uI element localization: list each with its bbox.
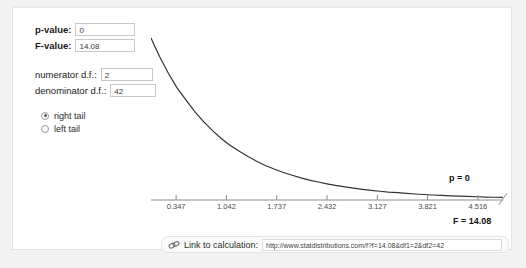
f-value-row: F-value: 14.08 [35, 38, 165, 53]
x-tick-label: 3.127 [368, 202, 387, 211]
x-tick-label: 2.432 [318, 202, 337, 211]
tail-radio-group: right tail left tail [41, 109, 86, 135]
f-value-output[interactable]: 14.08 [75, 39, 135, 52]
radio-left-tail-icon[interactable] [41, 125, 49, 133]
radio-left-tail-label: left tail [54, 124, 80, 134]
distribution-plot: 0.3471.0421.7372.4323.1273.8214.516 p = … [151, 20, 519, 205]
x-tick-label: 0.347 [167, 202, 186, 211]
denominator-df-label: denominator d.f.: [35, 85, 106, 96]
p-value-row: p-value: 0 [35, 22, 165, 37]
f-marker-slash [496, 193, 507, 205]
link-to-calculation-label: Link to calculation: [184, 240, 258, 250]
input-form: p-value: 0 F-value: 14.08 numerator d.f.… [35, 22, 165, 99]
radio-option-right-tail[interactable]: right tail [41, 109, 86, 122]
x-tick-label: 1.737 [267, 202, 286, 211]
chain-link-icon [168, 240, 180, 250]
f-value-annotation: F = 14.08 [453, 216, 491, 226]
x-tick-label: 3.821 [418, 202, 437, 211]
p-value-label: p-value: [35, 24, 71, 35]
f-value-label: F-value: [35, 40, 71, 51]
x-axis-ticks [176, 195, 478, 200]
radio-right-tail-label: right tail [54, 111, 86, 121]
p-value-annotation: p = 0 [449, 173, 470, 183]
form-spacer [35, 54, 165, 67]
numerator-df-row: numerator d.f.: 2 [35, 67, 165, 82]
x-tick-label: 4.516 [468, 202, 487, 211]
x-tick-label: 1.042 [217, 202, 236, 211]
radio-right-tail-icon[interactable] [41, 112, 49, 120]
denominator-df-row: denominator d.f.: 42 [35, 83, 165, 98]
numerator-df-label: numerator d.f.: [35, 69, 97, 80]
calculation-url-field[interactable]: http://www.statdistributions.com/f?f=14.… [262, 239, 502, 251]
page-background: p-value: 0 F-value: 14.08 numerator d.f.… [0, 0, 526, 268]
denominator-df-input[interactable]: 42 [110, 84, 156, 97]
numerator-df-input[interactable]: 2 [101, 68, 153, 81]
calculator-panel: p-value: 0 F-value: 14.08 numerator d.f.… [12, 8, 512, 250]
link-to-calculation-bar[interactable]: Link to calculation: http://www.statdist… [161, 236, 509, 253]
p-value-output[interactable]: 0 [75, 23, 135, 36]
radio-option-left-tail[interactable]: left tail [41, 122, 86, 135]
